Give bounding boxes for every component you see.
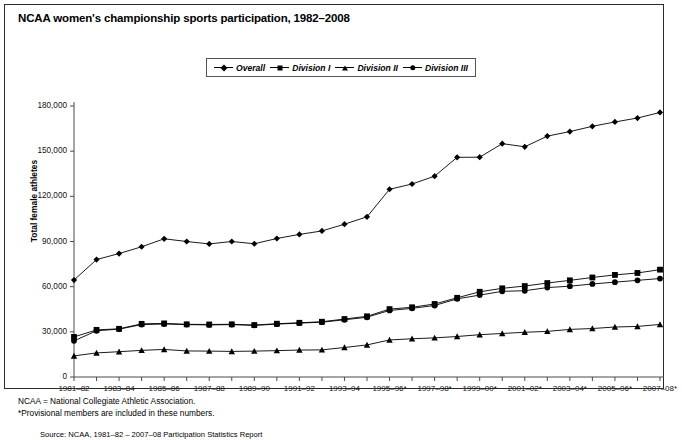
y-tick-label: 60,000 — [17, 282, 67, 291]
data-point — [319, 228, 325, 234]
data-point — [364, 314, 370, 320]
data-point — [635, 277, 641, 283]
data-point — [184, 322, 190, 328]
data-point — [184, 238, 190, 244]
data-point — [342, 317, 348, 323]
data-point — [387, 308, 393, 314]
data-point — [589, 275, 595, 281]
y-tick-label: 0 — [17, 372, 67, 381]
data-point — [94, 328, 100, 334]
data-point — [634, 115, 640, 121]
data-point — [522, 144, 528, 150]
data-point — [477, 154, 483, 160]
data-point — [139, 244, 145, 250]
plot-area — [4, 4, 664, 389]
data-point — [432, 303, 438, 309]
data-point — [544, 285, 550, 291]
data-point — [635, 270, 641, 276]
data-point — [206, 322, 212, 328]
data-point — [251, 322, 257, 328]
y-tick-label: 150,000 — [17, 146, 67, 155]
data-point — [116, 326, 122, 332]
source-note: Source: NCAA, 1981–82 – 2007–08 Particip… — [40, 430, 670, 440]
data-point — [116, 250, 122, 256]
data-point — [229, 238, 235, 244]
data-point — [522, 288, 528, 294]
x-tick-label: 2007–08* — [630, 384, 682, 393]
data-point — [139, 322, 145, 328]
data-point — [409, 181, 415, 187]
data-point — [567, 277, 573, 283]
data-point — [544, 133, 550, 139]
y-tick-label: 90,000 — [17, 237, 67, 246]
data-point — [589, 281, 595, 287]
data-point — [499, 141, 505, 147]
footnote-ncaa-definition: NCAA = National Collegiate Athletic Asso… — [18, 396, 214, 408]
data-point — [161, 236, 167, 242]
data-point — [296, 320, 302, 326]
data-point — [477, 292, 483, 298]
y-tick-label: 30,000 — [17, 327, 67, 336]
data-point — [409, 305, 415, 311]
data-point — [341, 221, 347, 227]
data-point — [274, 321, 280, 327]
data-point — [71, 338, 77, 344]
data-point — [612, 272, 618, 278]
chart-footnotes: NCAA = National Collegiate Athletic Asso… — [18, 396, 214, 419]
series-line-overall — [74, 112, 660, 280]
data-point — [251, 241, 257, 247]
data-point — [612, 279, 618, 285]
data-point — [657, 276, 663, 282]
data-point — [454, 296, 460, 302]
y-tick-label: 180,000 — [17, 101, 67, 110]
data-point — [567, 128, 573, 134]
data-point — [499, 288, 505, 294]
data-point — [229, 322, 235, 328]
data-point — [274, 235, 280, 241]
data-point — [161, 321, 167, 327]
y-tick-label: 120,000 — [17, 191, 67, 200]
data-point — [567, 283, 573, 289]
data-point — [296, 231, 302, 237]
footnote-provisional-members: *Provisional members are included in the… — [18, 408, 214, 420]
data-point — [657, 109, 663, 115]
data-point — [612, 119, 618, 125]
data-point — [589, 123, 595, 129]
data-point — [206, 241, 212, 247]
data-point — [319, 319, 325, 325]
data-point — [657, 267, 663, 273]
